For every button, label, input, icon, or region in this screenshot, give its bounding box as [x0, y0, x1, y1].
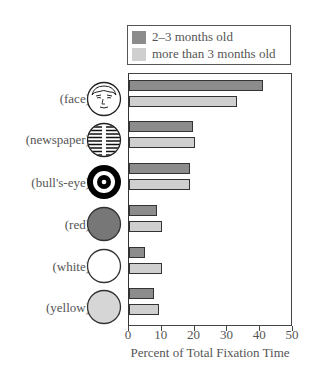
face-icon	[86, 81, 122, 117]
x-tick-label: 20	[187, 327, 200, 343]
x-axis	[128, 326, 292, 336]
category-label-red: (red)	[0, 217, 90, 233]
bullseye-icon	[86, 164, 122, 200]
category-label-newspaper: (newspaper)	[0, 132, 90, 148]
x-tick-label: 10	[154, 327, 167, 343]
legend-item-young: 2–3 months old	[132, 30, 233, 44]
legend: 2–3 months old more than 3 months old	[127, 25, 291, 65]
x-tick-label: 30	[220, 327, 233, 343]
bar-yellow-series-1	[129, 304, 159, 315]
bar-bulls-eye-series-1	[129, 179, 190, 190]
category-label-face: (face)	[0, 91, 90, 107]
bar-red-series-0	[129, 205, 157, 216]
bar-white-series-1	[129, 263, 162, 274]
legend-item-older: more than 3 months old	[132, 47, 276, 61]
category-label-yellow: (yellow)	[0, 300, 90, 316]
x-tick-label: 0	[125, 327, 132, 343]
x-axis-label: Percent of Total Fixation Time	[128, 345, 292, 361]
bar-white-series-0	[129, 247, 145, 258]
bar-face-series-1	[129, 96, 237, 107]
yellow-disc-icon	[86, 289, 122, 325]
bar-newspaper-series-1	[129, 137, 195, 148]
legend-swatch-dark	[132, 31, 146, 44]
bar-newspaper-series-0	[129, 121, 193, 132]
legend-swatch-light	[132, 48, 146, 61]
x-tick-label: 40	[253, 327, 266, 343]
red-disc-icon	[86, 206, 122, 242]
bar-red-series-1	[129, 221, 162, 232]
legend-label: 2–3 months old	[152, 29, 233, 45]
white-disc-icon	[86, 248, 122, 284]
bar-face-series-0	[129, 80, 263, 91]
category-label-white: (white)	[0, 259, 90, 275]
legend-label: more than 3 months old	[152, 46, 276, 62]
plot-area	[128, 73, 292, 326]
x-tick-label: 50	[286, 327, 299, 343]
newspaper-icon	[86, 122, 122, 158]
bar-yellow-series-0	[129, 288, 154, 299]
bar-bulls-eye-series-0	[129, 163, 190, 174]
category-label-bullseye: (bull's-eye)	[0, 175, 90, 191]
